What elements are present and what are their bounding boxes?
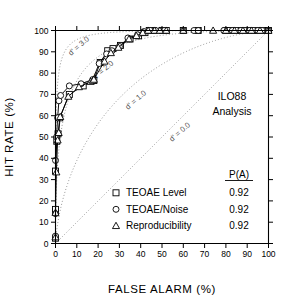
legend-marker-triangle <box>112 222 119 228</box>
x-tick-label: 90 <box>242 249 252 259</box>
roc-chart: d' = 3.0d' = 2.0d' = 1.0d' = 0.001020304… <box>0 0 298 302</box>
iso-label-0.0: d' = 0.0 <box>167 120 192 143</box>
y-tick-label: 10 <box>39 217 49 227</box>
x-tick-label: 60 <box>179 249 189 259</box>
x-tick-label: 30 <box>115 249 125 259</box>
series-point-circle <box>66 83 72 89</box>
legend-label-circle: TEOAE/Noise <box>126 204 189 215</box>
y-tick-label: 50 <box>39 132 49 142</box>
y-tick-label: 80 <box>39 68 49 78</box>
iso-label-1.0: d' = 1.0 <box>123 88 148 111</box>
legend-pa-value-square: 0.92 <box>229 187 249 198</box>
legend-marker-square <box>113 190 119 196</box>
y-tick-label: 40 <box>39 153 49 163</box>
y-tick-label: 100 <box>34 26 48 36</box>
x-tick-label: 70 <box>200 249 210 259</box>
legend-pa-header: P(A) <box>229 169 249 180</box>
x-tick-label: 50 <box>157 249 167 259</box>
x-tick-label: 20 <box>93 249 103 259</box>
legend-pa-value-circle: 0.92 <box>229 204 249 215</box>
legend-label-square: TEOAE Level <box>126 187 187 198</box>
y-tick-label: 0 <box>44 239 49 249</box>
x-tick-label: 0 <box>53 249 58 259</box>
x-tick-label: 40 <box>136 249 146 259</box>
analysis-label-line2: Analysis <box>212 105 251 117</box>
x-axis-title: FALSE ALARM (%) <box>108 283 216 295</box>
y-tick-label: 60 <box>39 111 49 121</box>
legend-label-triangle: Reproducibility <box>126 220 192 231</box>
x-tick-label: 100 <box>261 249 275 259</box>
y-tick-label: 90 <box>39 47 49 57</box>
chart-canvas: d' = 3.0d' = 2.0d' = 1.0d' = 0.001020304… <box>0 0 298 302</box>
legend-pa-value-triangle: 0.92 <box>229 220 249 231</box>
analysis-label-line1: ILO88 <box>218 90 247 102</box>
iso-label-3.0: d' = 3.0 <box>66 34 91 57</box>
y-tick-label: 70 <box>39 89 49 99</box>
x-tick-label: 80 <box>221 249 231 259</box>
y-axis-title: HIT RATE (%) <box>3 97 15 177</box>
legend-marker-circle <box>113 206 119 212</box>
series-point-circle <box>58 92 64 98</box>
y-tick-label: 30 <box>39 175 49 185</box>
y-tick-label: 20 <box>39 196 49 206</box>
x-tick-label: 10 <box>72 249 82 259</box>
